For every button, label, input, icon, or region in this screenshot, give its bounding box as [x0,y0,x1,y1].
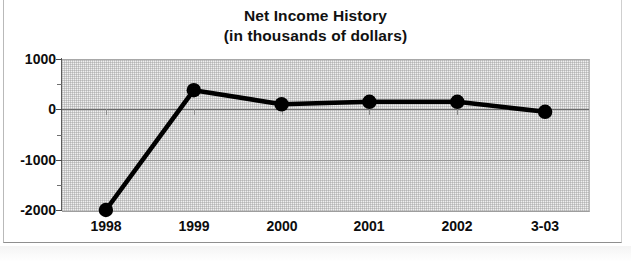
page-edge-shadow [0,246,631,262]
data-point-2001 [362,95,376,109]
data-series-layer [0,0,631,262]
net-income-line [106,90,545,210]
data-point-1999 [187,83,201,97]
data-point-3-03 [538,105,552,119]
data-point-2002 [450,95,464,109]
data-point-1998 [99,203,113,217]
data-point-2000 [274,97,288,111]
chart-screenshot: Net Income History (in thousands of doll… [0,0,631,262]
